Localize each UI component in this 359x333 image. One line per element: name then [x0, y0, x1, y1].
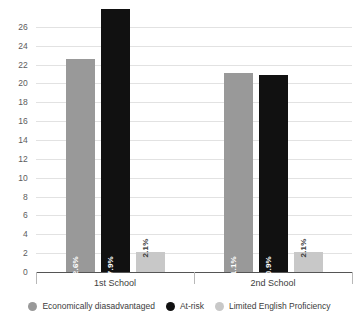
chart-legend: Economically diasadvantagedAt-riskLimite… [0, 302, 359, 311]
legend-swatch-icon [28, 302, 37, 311]
legend-item[interactable]: Economically diasadvantaged [28, 302, 154, 311]
y-axis-tick-label: 0 [23, 268, 28, 277]
x-axis-category-tick [36, 272, 37, 284]
legend-item[interactable]: Limited English Proficiency [215, 302, 331, 311]
legend-swatch-icon [166, 302, 175, 311]
y-axis-tick-label: 4 [23, 230, 28, 239]
y-axis-tick-label: 24 [18, 41, 28, 50]
y-axis-tick-label: 26 [18, 23, 28, 32]
legend-item[interactable]: At-risk [166, 302, 204, 311]
legend-label: Economically diasadvantaged [42, 302, 154, 311]
legend-swatch-icon [215, 302, 224, 311]
y-axis-tick-label: 20 [18, 79, 28, 88]
x-axis: 1st School2nd School [36, 272, 352, 296]
x-axis-category-label: 1st School [94, 279, 136, 288]
y-axis-tick-label: 22 [18, 60, 28, 69]
y-axis-tick-label: 6 [23, 211, 28, 220]
y-axis-tick-label: 16 [18, 117, 28, 126]
y-axis-tick-label: 18 [18, 98, 28, 107]
bar[interactable]: 2.1% [294, 252, 323, 272]
bar[interactable]: 21.1% [224, 73, 253, 272]
bar[interactable]: 22.6% [66, 59, 95, 272]
plot-area: 22.6%27.9%2.1%21.1%20.9%2.1% [36, 8, 352, 272]
x-axis-category-label: 2nd School [250, 279, 295, 288]
bars-layer: 22.6%27.9%2.1%21.1%20.9%2.1% [36, 8, 352, 272]
bar[interactable]: 20.9% [259, 75, 288, 272]
y-axis-tick-label: 2 [23, 249, 28, 258]
y-axis-tick-label: 10 [18, 173, 28, 182]
y-axis-tick-label: 8 [23, 192, 28, 201]
bar[interactable]: 27.9% [101, 9, 130, 272]
x-axis-category-tick [194, 272, 195, 284]
y-axis-tick-labels: 02468101214161820222426 [0, 8, 34, 272]
legend-label: Limited English Proficiency [229, 302, 331, 311]
bar-value-label: 2.1% [142, 239, 150, 258]
legend-label: At-risk [180, 302, 204, 311]
bar-value-label: 2.1% [300, 239, 308, 258]
bar-chart: 02468101214161820222426 22.6%27.9%2.1%21… [0, 0, 359, 333]
bar[interactable]: 2.1% [136, 252, 165, 272]
y-axis-tick-label: 14 [18, 136, 28, 145]
x-axis-category-tick [352, 272, 353, 284]
y-axis-tick-label: 12 [18, 155, 28, 164]
